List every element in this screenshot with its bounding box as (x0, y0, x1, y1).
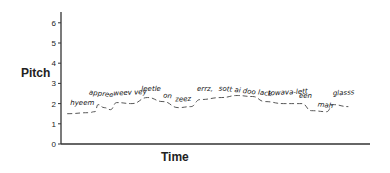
syllable-label: mah (317, 101, 333, 111)
syllable-annotations: hyeemappreeweev veyleetleonzeezerrz,sott… (70, 85, 355, 111)
y-axis-ticks: 0123456 (52, 19, 61, 149)
y-axis-label: Pitch (21, 66, 50, 80)
y-tick-label: 5 (52, 39, 57, 48)
syllable-label: errz, (197, 85, 213, 93)
x-axis-label: Time (161, 150, 189, 164)
syllable-label: een (299, 92, 312, 100)
syllable-label: hyeem (70, 99, 94, 107)
syllable-label: appree (89, 89, 114, 100)
y-tick-label: 4 (52, 59, 57, 68)
y-tick-label: 1 (52, 120, 57, 129)
syllable-label: leetle (141, 85, 161, 93)
y-tick-label: 2 (52, 100, 57, 109)
y-tick-label: 6 (52, 19, 57, 28)
y-tick-label: 3 (52, 79, 57, 88)
syllable-label: glasss (333, 88, 355, 97)
syllable-label: zeez (174, 95, 192, 104)
pitch-contour-chart: 0123456 hyeemappreeweev veyleetleonzeeze… (0, 0, 390, 173)
y-tick-label: 0 (52, 140, 57, 149)
syllable-label: on (163, 92, 173, 101)
